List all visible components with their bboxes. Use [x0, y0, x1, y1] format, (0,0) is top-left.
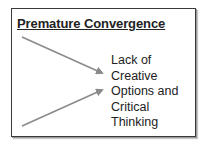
- arrow-bottom-icon: [22, 90, 102, 126]
- result-label: Lack of Creative Options and Critical Th…: [111, 53, 191, 131]
- arrow-top-icon: [22, 37, 102, 73]
